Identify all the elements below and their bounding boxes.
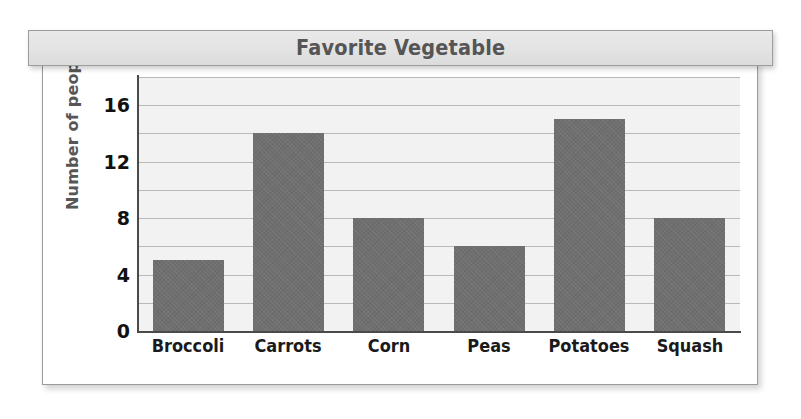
plot-area xyxy=(138,77,740,331)
x-label-squash: Squash xyxy=(643,336,738,356)
y-tick-label: 8 xyxy=(117,209,130,228)
gridline xyxy=(138,246,740,247)
gridline xyxy=(138,218,740,219)
x-label-potatoes: Potatoes xyxy=(542,336,637,356)
x-label-carrots: Carrots xyxy=(241,336,336,356)
y-axis-line xyxy=(137,75,139,333)
y-tick-label: 0 xyxy=(117,322,130,341)
x-label-broccoli: Broccoli xyxy=(141,336,236,356)
x-label-corn: Corn xyxy=(342,336,437,356)
x-label-peas: Peas xyxy=(442,336,537,356)
bar-squash xyxy=(654,218,725,331)
chart-title-banner: Favorite Vegetable xyxy=(28,30,773,66)
y-tick-label: 16 xyxy=(104,96,130,115)
bar-potatoes xyxy=(554,119,625,331)
y-axis-tick-labels: 0481216 xyxy=(86,77,130,331)
x-axis-category-labels: BroccoliCarrotsCornPeasPotatoesSquash xyxy=(138,336,740,368)
page-title: Favorite Vegetable xyxy=(296,36,505,60)
gridline xyxy=(138,105,740,106)
plot-background xyxy=(138,77,740,331)
bar-carrots xyxy=(253,133,324,331)
bar-broccoli xyxy=(153,260,224,331)
gridline xyxy=(138,190,740,191)
gridline xyxy=(138,133,740,134)
gridline xyxy=(138,162,740,163)
bar-corn xyxy=(353,218,424,331)
gridline xyxy=(138,275,740,276)
y-tick-label: 12 xyxy=(104,153,130,172)
gridline xyxy=(138,77,740,78)
gridline xyxy=(138,303,740,304)
chart-screenshot: Favorite Vegetable Number of people 0481… xyxy=(0,0,801,419)
y-tick-label: 4 xyxy=(117,266,130,285)
bar-peas xyxy=(454,246,525,331)
x-axis-line xyxy=(137,331,741,333)
